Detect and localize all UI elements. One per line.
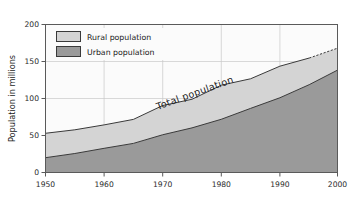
x-tick-label-1960: 1960 bbox=[94, 180, 113, 189]
x-tick-label-1970: 1970 bbox=[153, 180, 172, 189]
chart-legend: Rural population Urban population bbox=[51, 28, 167, 60]
legend-swatch-rural bbox=[57, 32, 81, 42]
y-axis-ticks bbox=[42, 25, 46, 173]
y-axis-title: Population in millions bbox=[7, 55, 17, 142]
legend-label-urban: Urban population bbox=[87, 48, 155, 57]
y-tick-label-100: 100 bbox=[25, 94, 40, 103]
x-axis-ticks bbox=[46, 173, 338, 177]
population-area-chart: 200 150 100 50 0 1950 1960 1970 1980 199… bbox=[0, 0, 355, 201]
legend-label-rural: Rural population bbox=[87, 33, 151, 42]
y-tick-label-150: 150 bbox=[25, 57, 40, 66]
y-tick-label-50: 50 bbox=[29, 131, 39, 140]
legend-swatch-urban bbox=[57, 47, 81, 57]
x-tick-label-1990: 1990 bbox=[270, 180, 289, 189]
x-tick-label-1950: 1950 bbox=[36, 180, 55, 189]
y-tick-label-0: 0 bbox=[34, 168, 39, 177]
y-tick-label-200: 200 bbox=[25, 20, 40, 29]
chart-figure: 200 150 100 50 0 1950 1960 1970 1980 199… bbox=[0, 0, 355, 201]
x-tick-label-2000: 2000 bbox=[328, 180, 347, 189]
x-tick-label-1980: 1980 bbox=[212, 180, 231, 189]
